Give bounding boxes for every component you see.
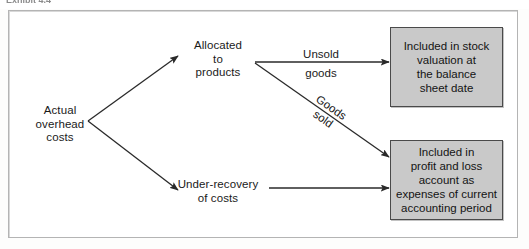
node-allocated-to-products: Allocated to products [172, 39, 264, 80]
result-box-profit-and-loss: Included in profit and loss account as e… [390, 140, 503, 220]
figure-caption-text: Exhibit 4.4 [6, 0, 102, 5]
edge-label-goods: goods [286, 67, 356, 81]
node-actual-overhead-costs: Actual overhead costs [14, 104, 106, 145]
result-box-stock-valuation: Included in stock valuation at the balan… [390, 27, 503, 107]
figure-caption-cropped: Exhibit 4.4 [6, 0, 102, 5]
node-under-recovery-of-costs: Under-recovery of costs [160, 178, 276, 205]
figure-screenshot: Exhibit 4.4 Actual overhead costs Alloca… [0, 0, 529, 249]
edge-label-unsold: Unsold [286, 48, 356, 62]
